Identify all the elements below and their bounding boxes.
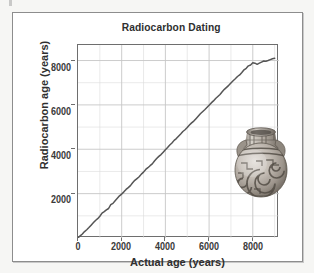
crop-artifact-mark xyxy=(9,0,12,6)
y-tick-label-4000: 4000 xyxy=(30,150,71,161)
y-tickmark xyxy=(71,104,75,105)
chart-title-text: Radiocarbon Dating xyxy=(122,21,221,33)
pottery-vessel-image xyxy=(232,123,290,201)
x-tick-label-2000: 2000 xyxy=(100,241,141,252)
y-tickmark xyxy=(71,193,75,194)
y-tick-label-2000: 2000 xyxy=(30,194,71,205)
x-tick-label-0: 0 xyxy=(57,241,98,252)
x-tick-label-8000: 8000 xyxy=(232,241,273,252)
y-tickmark xyxy=(71,148,75,149)
x-axis-title: Actual age (years) xyxy=(77,256,278,268)
x-tick-label-4000: 4000 xyxy=(144,241,185,252)
y-tick-label-8000: 8000 xyxy=(30,62,71,73)
x-axis-tick-layer: 0 2000 4000 6000 8000 xyxy=(77,241,278,255)
y-axis-title: Radiocarbon age (years) xyxy=(38,25,50,185)
y-tickmark xyxy=(71,60,75,61)
y-tick-label-6000: 6000 xyxy=(30,106,71,117)
figure-frame: Radiocarbon Dating 8000 6000 4000 2000 0… xyxy=(12,12,303,262)
x-tick-label-6000: 6000 xyxy=(188,241,229,252)
chart-title: Radiocarbon Dating xyxy=(13,21,302,33)
